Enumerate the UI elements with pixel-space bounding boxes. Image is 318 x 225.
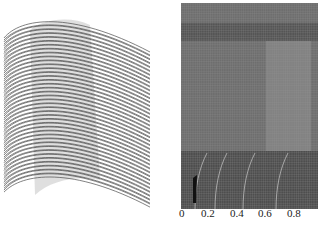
blade-wireframe <box>0 0 160 225</box>
x-tick-1: 0.2 <box>201 207 215 219</box>
mesh-panel: 0 0.2 0.4 0.6 0.8 <box>160 0 318 225</box>
mesh-lines <box>181 3 318 209</box>
x-tick-2: 0.4 <box>230 207 244 219</box>
mesh-grid <box>181 3 318 209</box>
x-tick-3: 0.6 <box>258 207 272 219</box>
x-tick-4: 0.8 <box>287 207 301 219</box>
x-tick-0: 0 <box>179 207 185 219</box>
blade-wireframe-panel <box>0 0 160 225</box>
